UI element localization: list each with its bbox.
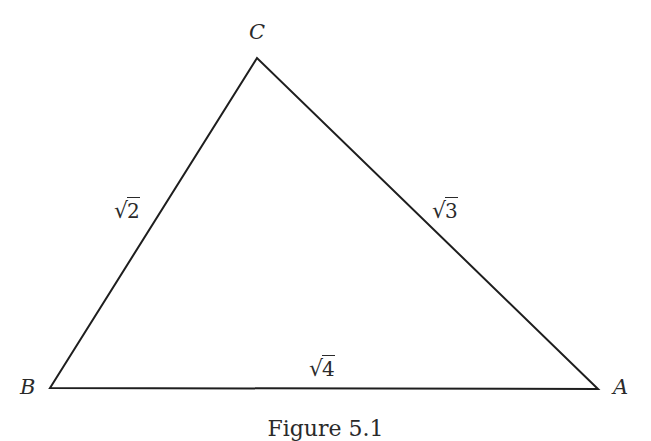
figure-caption: Figure 5.1 <box>0 418 651 440</box>
radicand: 4 <box>322 355 335 381</box>
edge-label-ba: √4 <box>309 358 335 380</box>
radicand: 2 <box>127 197 140 223</box>
radical-sign: √ <box>309 356 323 381</box>
vertex-label-a: A <box>613 377 628 398</box>
edge-label-bc: √2 <box>114 200 140 222</box>
radicand: 3 <box>445 197 458 223</box>
vertex-label-b: B <box>20 377 35 398</box>
vertex-label-c: C <box>249 22 265 43</box>
radical-sign: √ <box>114 198 128 223</box>
edge-label-ca: √3 <box>432 200 458 222</box>
radical-sign: √ <box>432 198 446 223</box>
triangle-abc <box>50 58 598 389</box>
